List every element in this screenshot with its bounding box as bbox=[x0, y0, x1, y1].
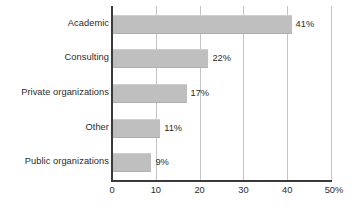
bar-public-organizations bbox=[112, 153, 151, 172]
bar-value-other: 11% bbox=[164, 123, 182, 134]
x-axis-tick-labels: 0 10 20 30 40 50% bbox=[0, 184, 354, 202]
x-tick-label-20: 20 bbox=[194, 184, 204, 196]
category-label-public-organizations: Public organizations bbox=[0, 156, 109, 167]
bar-consulting bbox=[112, 49, 208, 68]
bar-private-organizations bbox=[112, 84, 187, 103]
bar-value-private-organizations: 17% bbox=[191, 88, 210, 99]
x-axis-line bbox=[111, 180, 332, 182]
bar-chart: Academic Consulting Private organization… bbox=[0, 0, 354, 210]
bar-value-public-organizations: 9% bbox=[155, 157, 168, 168]
x-tick-label-40: 40 bbox=[282, 184, 292, 196]
bar-academic bbox=[112, 15, 292, 34]
category-label-private-organizations: Private organizations bbox=[0, 87, 109, 98]
x-tick-label-10: 10 bbox=[151, 184, 161, 196]
bar-value-academic: 41% bbox=[296, 19, 315, 30]
bar-value-consulting: 22% bbox=[212, 53, 231, 64]
x-tick-label-30: 30 bbox=[238, 184, 248, 196]
bar-other bbox=[112, 119, 160, 138]
y-axis-line bbox=[111, 6, 113, 181]
category-label-consulting: Consulting bbox=[0, 52, 109, 63]
category-label-academic: Academic bbox=[0, 18, 109, 29]
category-axis-labels: Academic Consulting Private organization… bbox=[0, 0, 109, 180]
category-label-other: Other bbox=[0, 122, 109, 133]
plot-area: 41% 22% 17% 11% 9% bbox=[112, 6, 331, 180]
gridline-50 bbox=[331, 6, 332, 180]
x-tick-label-0: 0 bbox=[109, 184, 114, 196]
x-tick-label-50: 50% bbox=[325, 184, 344, 196]
